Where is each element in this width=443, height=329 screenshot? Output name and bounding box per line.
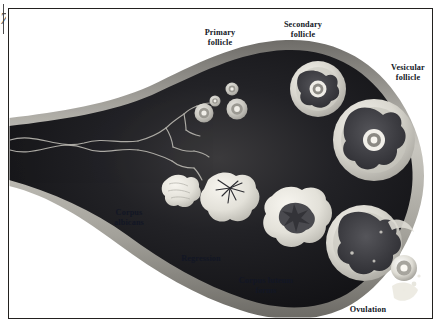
label-primary-follicle: Primary follicle bbox=[188, 28, 252, 47]
label-vesicular-follicle: Vesicular follicle bbox=[377, 63, 439, 82]
label-regression: Regression bbox=[168, 254, 234, 264]
primary-follicle bbox=[227, 99, 248, 120]
primary-follicle bbox=[195, 104, 214, 123]
vesicular-follicle bbox=[333, 99, 415, 181]
label-corpus-luteum-forms: Corpus luteum forms bbox=[222, 276, 310, 295]
primary-follicle bbox=[210, 96, 221, 107]
secondary-follicle bbox=[290, 61, 346, 117]
label-secondary-follicle: Secondary follicle bbox=[268, 20, 338, 39]
primary-follicle bbox=[226, 83, 239, 96]
label-corpus-albicans: Corpus albicans bbox=[98, 208, 160, 227]
figure-root: 7 bbox=[0, 0, 443, 329]
label-ovulation: Ovulation bbox=[337, 305, 399, 315]
